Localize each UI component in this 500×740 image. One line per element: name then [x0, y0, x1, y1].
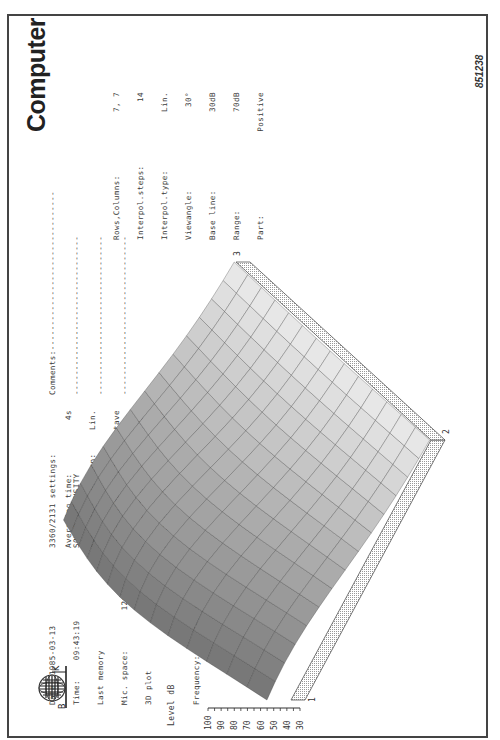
corner-label: 3 [233, 251, 242, 256]
z-tick-label: 80 [230, 720, 239, 730]
figure-number: 851238 [474, 55, 485, 88]
document-page: B K Date: 1985-03-13 Time: 09:43:19 Last… [0, 0, 500, 740]
z-tick-label: 30 [296, 720, 305, 730]
z-tick-label: 50 [270, 720, 279, 730]
z-tick-label: 90 [217, 720, 226, 730]
surface-plot: 10090807060504030123 [0, 0, 500, 740]
z-tick-label: 100 [204, 715, 213, 730]
z-tick-label: 40 [283, 720, 292, 730]
z-tick-label: 60 [257, 720, 266, 730]
z-tick-label: 70 [243, 720, 252, 730]
corner-label: 1 [308, 697, 317, 702]
corner-label: 2 [442, 429, 451, 434]
